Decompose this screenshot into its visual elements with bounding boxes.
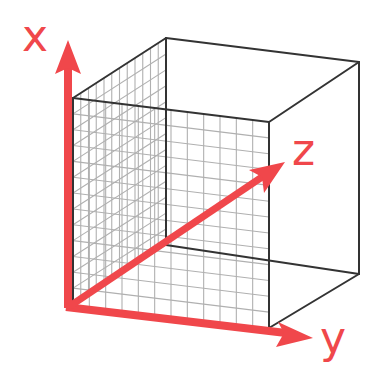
edge-top-back <box>166 38 359 62</box>
edge-top-right <box>269 62 359 122</box>
axes <box>55 40 313 347</box>
z-axis-arrowhead-icon <box>249 162 285 193</box>
axis-label-y: y <box>320 316 346 360</box>
axis-label-z: z <box>292 128 315 172</box>
z-axis <box>70 175 265 306</box>
diagram-canvas: x z y <box>0 0 385 390</box>
axis-label-x: x <box>22 14 48 58</box>
edge-back-bottom <box>166 245 359 274</box>
